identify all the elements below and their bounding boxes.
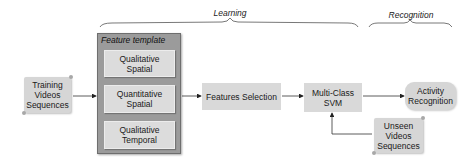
item-line2: Spatial	[119, 64, 159, 74]
item-line2: Spatial	[117, 99, 162, 109]
unseen-line2: Videos	[377, 131, 420, 141]
activity-recognition-node: Activity Recognition	[405, 82, 456, 110]
svm-line2: SVM	[312, 98, 354, 108]
multi-class-svm-node: Multi-Class SVM	[304, 83, 362, 112]
training-videos-node: Training Videos Sequences	[24, 77, 71, 113]
item-line1: Qualitative	[119, 54, 159, 64]
item-line1: Qualitative	[119, 125, 159, 135]
activity-line1: Activity	[408, 86, 453, 96]
training-line2: Videos	[26, 90, 69, 100]
recognition-brace	[369, 20, 452, 27]
training-line1: Training	[26, 80, 69, 90]
learning-label: Learning	[205, 8, 255, 18]
item-line2: Temporal	[119, 135, 159, 145]
qualitative-spatial-node: Qualitative Spatial	[104, 50, 175, 77]
unseen-line3: Sequences	[377, 141, 420, 151]
svm-line1: Multi-Class	[312, 88, 354, 98]
unseen-line1: Unseen	[377, 121, 420, 131]
features-selection-node: Features Selection	[202, 83, 281, 110]
qualitative-temporal-node: Qualitative Temporal	[104, 121, 175, 149]
quantitative-spatial-node: Quantitative Spatial	[104, 85, 175, 113]
training-line3: Sequences	[26, 100, 69, 110]
activity-line2: Recognition	[408, 96, 453, 106]
template-title: Feature template	[101, 35, 165, 45]
recognition-label: Recognition	[384, 10, 438, 20]
item-line1: Quantitative	[117, 89, 162, 99]
unseen-videos-node: Unseen Videos Sequences	[374, 118, 423, 153]
learning-brace	[100, 18, 358, 27]
